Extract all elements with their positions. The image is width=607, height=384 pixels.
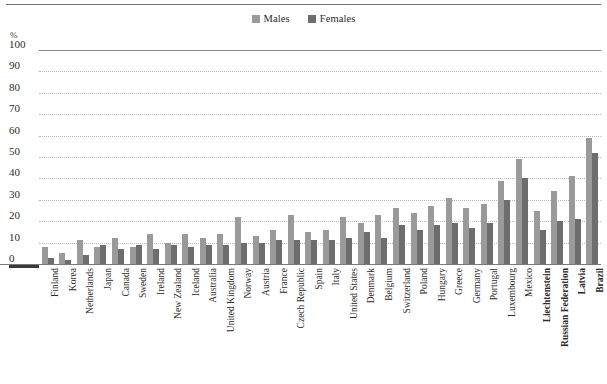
x-category: Sweden	[127, 266, 145, 382]
x-axis-category-labels: FinlandKoreaNetherlandsJapanCanadaSweden…	[39, 266, 601, 382]
bar-group[interactable]	[496, 50, 514, 264]
y-axis-zero-stub	[9, 265, 39, 268]
bar-group[interactable]	[531, 50, 549, 264]
bar-group[interactable]	[461, 50, 479, 264]
bar-females[interactable]	[276, 240, 282, 264]
y-tick-label-20: 20	[9, 210, 35, 221]
bar-females[interactable]	[171, 245, 177, 264]
bar-group[interactable]	[425, 50, 443, 264]
bar-females[interactable]	[575, 219, 581, 264]
bar-group[interactable]	[92, 50, 110, 264]
bar-females[interactable]	[83, 255, 89, 264]
bar-females[interactable]	[100, 245, 106, 264]
x-category: Luxembourg	[496, 266, 514, 382]
bar-females[interactable]	[381, 238, 387, 264]
bar-series-container	[39, 50, 601, 264]
x-category: Germany	[461, 266, 479, 382]
bar-group[interactable]	[267, 50, 285, 264]
y-tick-label-60: 60	[9, 125, 35, 136]
bar-females[interactable]	[417, 230, 423, 264]
bar-females[interactable]	[259, 243, 265, 264]
bar-females[interactable]	[188, 247, 194, 264]
bar-group[interactable]	[443, 50, 461, 264]
x-category: United Kingdom	[215, 266, 233, 382]
bar-group[interactable]	[566, 50, 584, 264]
y-tick-label-50: 50	[9, 146, 35, 157]
legend-entry-males: Males	[252, 14, 290, 25]
bar-females[interactable]	[540, 230, 546, 264]
x-category: Latvia	[566, 266, 584, 382]
plot-area	[39, 50, 601, 264]
bar-group[interactable]	[408, 50, 426, 264]
bar-group[interactable]	[144, 50, 162, 264]
x-category: United States	[338, 266, 356, 382]
y-tick-label-80: 80	[9, 82, 35, 93]
x-category: Liechtenstein	[531, 266, 549, 382]
x-category: Portugal	[478, 266, 496, 382]
bar-females[interactable]	[592, 153, 598, 264]
bar-group[interactable]	[180, 50, 198, 264]
bar-females[interactable]	[504, 200, 510, 264]
bar-group[interactable]	[57, 50, 75, 264]
x-category: Switzerland	[390, 266, 408, 382]
bar-group[interactable]	[373, 50, 391, 264]
bar-females[interactable]	[329, 240, 335, 264]
bar-females[interactable]	[206, 245, 212, 264]
bar-group[interactable]	[127, 50, 145, 264]
chart-legend: Males Females	[0, 14, 607, 25]
y-tick-label-100: 100	[9, 39, 35, 50]
bar-females[interactable]	[487, 223, 493, 264]
bar-females[interactable]	[311, 240, 317, 264]
bar-group[interactable]	[250, 50, 268, 264]
x-category: Korea	[57, 266, 75, 382]
bar-group[interactable]	[162, 50, 180, 264]
bar-females[interactable]	[136, 245, 142, 264]
x-category: Finland	[39, 266, 57, 382]
x-axis-line	[0, 264, 601, 265]
bar-group[interactable]	[355, 50, 373, 264]
x-category: Belgium	[373, 266, 391, 382]
bar-females[interactable]	[346, 238, 352, 264]
y-tick-label-70: 70	[9, 103, 35, 114]
bar-group[interactable]	[338, 50, 356, 264]
bar-group[interactable]	[548, 50, 566, 264]
legend-entry-females: Females	[308, 14, 356, 25]
bar-group[interactable]	[583, 50, 601, 264]
bar-group[interactable]	[513, 50, 531, 264]
x-category: Spain	[302, 266, 320, 382]
bar-females[interactable]	[294, 240, 300, 264]
x-category: Japan	[92, 266, 110, 382]
bar-females[interactable]	[452, 223, 458, 264]
bar-group[interactable]	[74, 50, 92, 264]
bar-females[interactable]	[118, 249, 124, 264]
x-category: New Zealand	[162, 266, 180, 382]
x-category: Poland	[408, 266, 426, 382]
bar-group[interactable]	[320, 50, 338, 264]
bar-group[interactable]	[285, 50, 303, 264]
y-tick-label-90: 90	[9, 60, 35, 71]
bar-group[interactable]	[109, 50, 127, 264]
legend-label-females: Females	[320, 14, 356, 25]
bar-group[interactable]	[478, 50, 496, 264]
x-category: Australia	[197, 266, 215, 382]
bar-females[interactable]	[434, 225, 440, 264]
bar-group[interactable]	[390, 50, 408, 264]
x-category: Greece	[443, 266, 461, 382]
bar-group[interactable]	[215, 50, 233, 264]
bar-females[interactable]	[223, 245, 229, 264]
bar-group[interactable]	[39, 50, 57, 264]
bar-group[interactable]	[197, 50, 215, 264]
bar-group[interactable]	[302, 50, 320, 264]
x-category: Brazil	[583, 266, 601, 382]
bar-females[interactable]	[557, 221, 563, 264]
bar-group[interactable]	[232, 50, 250, 264]
bar-females[interactable]	[241, 243, 247, 264]
bar-females[interactable]	[469, 228, 475, 264]
bar-females[interactable]	[153, 249, 159, 264]
bar-females[interactable]	[364, 232, 370, 264]
y-tick-label-30: 30	[9, 189, 35, 200]
bar-females[interactable]	[522, 178, 528, 264]
bar-females[interactable]	[399, 225, 405, 264]
y-tick-label-10: 10	[9, 232, 35, 243]
x-category: Austria	[250, 266, 268, 382]
